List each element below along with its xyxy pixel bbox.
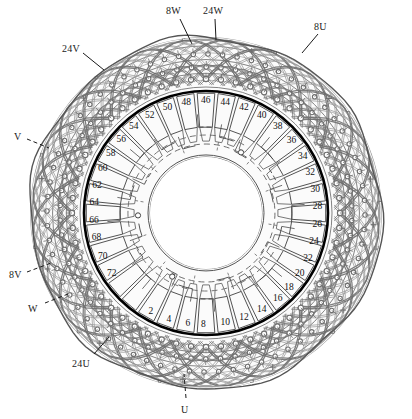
callout-label-8w: 8W: [166, 5, 181, 16]
callout-label-24w: 24W: [203, 5, 223, 16]
slot-number-6: 6: [185, 318, 190, 328]
slot-number-30: 30: [311, 184, 321, 194]
slot-number-22: 22: [303, 253, 313, 263]
callout-label-24u: 24U: [72, 358, 90, 369]
figure-canvas: 8W24W8U24VV8VW24UU 246810121416182022242…: [0, 0, 412, 419]
slot-number-26: 26: [312, 219, 322, 229]
slot-number-38: 38: [273, 121, 283, 131]
slot-number-70: 70: [98, 251, 108, 261]
slot-number-36: 36: [287, 135, 297, 145]
slot-number-52: 52: [145, 110, 155, 120]
slot-number-50: 50: [163, 102, 173, 112]
slot-number-34: 34: [298, 151, 308, 161]
center-hole: [150, 157, 262, 269]
stator-winding-diagram: [0, 0, 412, 419]
slot-number-10: 10: [220, 317, 230, 327]
callout-label-u: U: [181, 404, 188, 415]
slot-number-54: 54: [129, 121, 139, 131]
slot-number-8: 8: [201, 319, 206, 329]
slot-number-4: 4: [166, 314, 171, 324]
slot-number-72: 72: [107, 268, 117, 278]
slot-number-2: 2: [148, 306, 153, 316]
slot-number-60: 60: [98, 163, 108, 173]
slot-number-16: 16: [273, 293, 283, 303]
callout-label-w: W: [28, 303, 38, 314]
slot-number-66: 66: [89, 215, 99, 225]
slot-number-46: 46: [201, 95, 211, 105]
slot-number-40: 40: [257, 110, 267, 120]
slot-number-20: 20: [295, 268, 305, 278]
callout-label-v: V: [14, 131, 21, 142]
slot-number-12: 12: [239, 312, 249, 322]
callout-label-8v: 8V: [9, 269, 22, 280]
slot-number-44: 44: [220, 97, 230, 107]
callout-label-24v: 24V: [62, 43, 80, 54]
slot-number-48: 48: [182, 97, 192, 107]
slot-number-28: 28: [313, 201, 323, 211]
slot-number-64: 64: [89, 197, 99, 207]
slot-number-24: 24: [309, 236, 319, 246]
slot-number-56: 56: [116, 134, 126, 144]
slot-number-42: 42: [239, 102, 249, 112]
slot-number-68: 68: [92, 232, 102, 242]
slot-number-32: 32: [306, 167, 316, 177]
slot-number-58: 58: [106, 148, 116, 158]
slot-number-14: 14: [257, 304, 267, 314]
slot-number-18: 18: [284, 282, 294, 292]
slot-number-62: 62: [92, 180, 102, 190]
callout-label-8u: 8U: [314, 21, 327, 32]
